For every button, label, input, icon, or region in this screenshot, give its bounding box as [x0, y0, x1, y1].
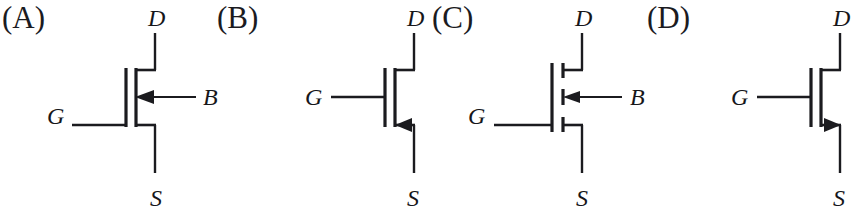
panel-c: (C) D G [430, 0, 645, 219]
terminal-label-bulk-c: B [630, 85, 645, 109]
terminal-label-source-a: S [150, 186, 162, 210]
terminal-label-source-b: S [407, 186, 419, 210]
terminal-label-gate-b: G [305, 85, 322, 109]
panel-c-symbol [430, 0, 645, 219]
terminal-label-gate-a: G [47, 104, 64, 128]
bulk-arrowhead-c [563, 91, 580, 103]
terminal-label-gate-d: G [731, 85, 748, 109]
terminal-label-drain-d: D [833, 6, 850, 30]
terminal-label-drain-a: D [148, 6, 165, 30]
terminal-label-source-d: S [833, 186, 845, 210]
panel-b: (B) D G S [215, 0, 430, 219]
bulk-arrowhead-a [135, 90, 154, 104]
panel-d-symbol [645, 0, 858, 219]
source-arrowhead-d [824, 118, 841, 132]
terminal-label-drain-c: D [575, 6, 592, 30]
terminal-label-source-c: S [576, 186, 588, 210]
panel-b-symbol [215, 0, 430, 219]
terminal-label-gate-c: G [468, 104, 485, 128]
source-arrowhead-b [395, 118, 412, 132]
mosfet-symbols-figure: (A) D G [0, 0, 858, 219]
panel-d: (D) D G S [645, 0, 858, 219]
panel-a-symbol [0, 0, 215, 219]
panel-a: (A) D G [0, 0, 215, 219]
terminal-label-drain-b: D [407, 6, 424, 30]
